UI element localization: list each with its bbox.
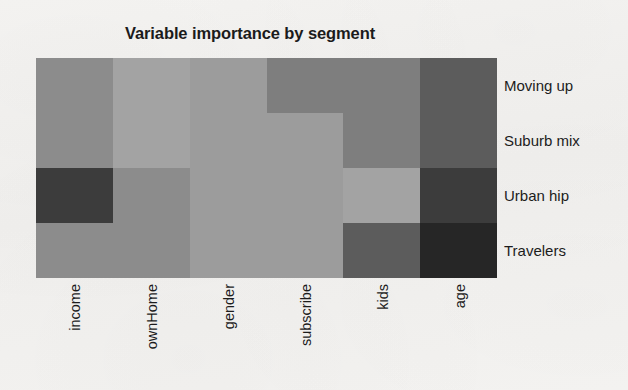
heatmap-cell — [36, 113, 113, 168]
heatmap-cell — [113, 113, 190, 168]
heatmap-cell — [343, 113, 420, 168]
column-label-kids: kids — [375, 284, 391, 310]
heatmap-cell — [190, 58, 267, 113]
heatmap-matrix — [36, 58, 497, 278]
column-label-slot: income — [36, 282, 113, 387]
heatmap-cell — [190, 113, 267, 168]
heatmap-cell — [420, 113, 497, 168]
heatmap-cell — [36, 58, 113, 113]
heatmap-cell — [36, 223, 113, 278]
column-label-gender: gender — [221, 284, 237, 329]
heatmap-cell — [36, 168, 113, 223]
column-label-ownhome: ownHome — [144, 284, 160, 349]
heatmap-cell — [113, 223, 190, 278]
column-label-slot: kids — [344, 282, 421, 387]
column-label-age: age — [452, 284, 468, 308]
heatmap-cell — [190, 223, 267, 278]
row-axis-labels: Moving up Suburb mix Urban hip Travelers — [504, 58, 628, 278]
heatmap-cell — [343, 58, 420, 113]
row-label-moving-up: Moving up — [504, 58, 573, 113]
column-label-slot: gender — [190, 282, 267, 387]
heatmap-cell — [343, 223, 420, 278]
heatmap-cell — [420, 168, 497, 223]
column-label-slot: subscribe — [267, 282, 344, 387]
heatmap-cell — [113, 168, 190, 223]
heatmap-cell — [343, 168, 420, 223]
row-label-urban-hip: Urban hip — [504, 168, 569, 223]
heatmap-cell — [267, 168, 344, 223]
heatmap-cell — [267, 113, 344, 168]
heatmap-cell — [190, 168, 267, 223]
column-label-slot: age — [421, 282, 498, 387]
column-label-income: income — [67, 284, 83, 331]
row-label-travelers: Travelers — [504, 223, 566, 278]
column-label-subscribe: subscribe — [298, 284, 314, 346]
heatmap-cell — [420, 58, 497, 113]
heatmap-cell — [267, 58, 344, 113]
page-title: Variable importance by segment — [0, 24, 500, 43]
column-label-slot: ownHome — [113, 282, 190, 387]
column-axis-labels: income ownHome gender subscribe kids age — [36, 282, 497, 387]
heatmap-cell — [113, 58, 190, 113]
heatmap-cell — [420, 223, 497, 278]
row-label-suburb-mix: Suburb mix — [504, 113, 580, 168]
heatmap-cell — [267, 223, 344, 278]
heatmap-figure: Variable importance by segment Moving up — [0, 0, 628, 390]
